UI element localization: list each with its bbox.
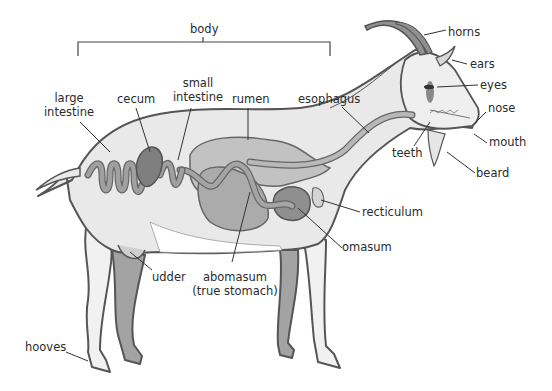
label-small-intestine-line1: small — [183, 76, 214, 90]
label-esophagus: esophagus — [298, 92, 360, 106]
label-large-intestine-line1: large — [54, 91, 83, 105]
label-eyes: eyes — [480, 78, 507, 92]
beard-shape — [428, 130, 445, 166]
label-large-intestine: large intestine — [40, 91, 98, 119]
label-omasum: omasum — [342, 240, 392, 254]
label-small-intestine-line2: intestine — [173, 90, 223, 104]
label-horns: horns — [448, 25, 480, 39]
label-body: body — [190, 22, 218, 36]
goat-anatomy-diagram: body horns ears eyes nose mouth beard te… — [0, 0, 552, 391]
label-beard: beard — [476, 166, 509, 180]
label-mouth: mouth — [489, 135, 526, 149]
label-ears: ears — [470, 57, 495, 71]
label-hooves: hooves — [25, 340, 66, 354]
body-bracket — [78, 37, 330, 56]
label-nose: nose — [488, 101, 515, 115]
label-teeth: teeth — [392, 146, 422, 160]
label-small-intestine: small intestine — [170, 76, 226, 104]
label-recticulum: recticulum — [362, 205, 423, 219]
label-cecum: cecum — [117, 92, 155, 106]
label-large-intestine-line2: intestine — [44, 105, 94, 119]
label-udder: udder — [152, 270, 186, 284]
label-abomasum-line1: abomasum — [203, 270, 267, 284]
label-abomasum: abomasum (true stomach) — [188, 270, 282, 298]
cheek-patch — [426, 81, 434, 103]
label-rumen: rumen — [232, 92, 270, 106]
label-abomasum-line2: (true stomach) — [192, 284, 278, 298]
eye-icon — [424, 85, 434, 89]
